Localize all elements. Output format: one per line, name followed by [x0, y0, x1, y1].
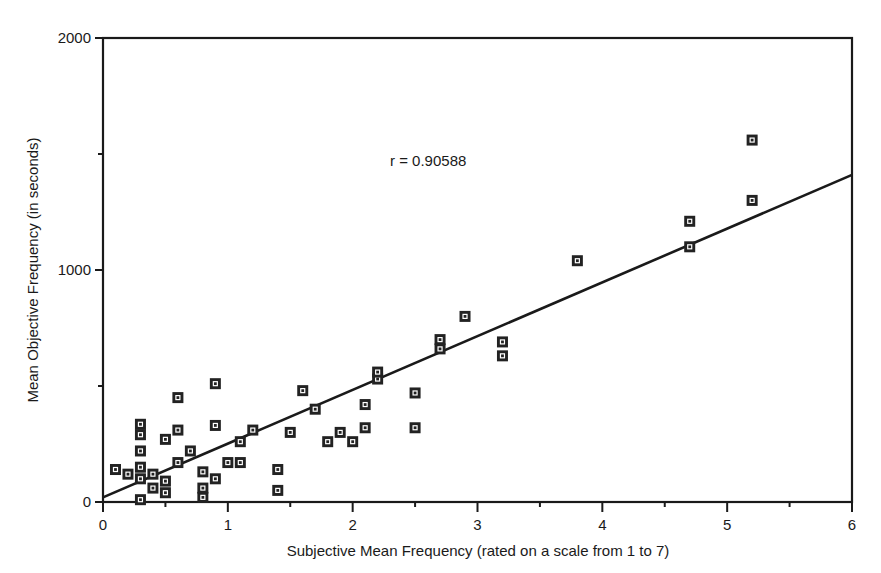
y-tick-label: 1000 — [58, 261, 91, 278]
y-axis: 010002000 — [58, 29, 103, 510]
y-tick-label: 2000 — [58, 29, 91, 46]
data-point — [197, 466, 208, 477]
x-tick-label: 0 — [99, 516, 107, 533]
data-point — [210, 473, 221, 484]
x-tick-label: 1 — [224, 516, 232, 533]
data-point — [497, 350, 508, 361]
data-point — [410, 422, 421, 433]
regression-line — [103, 175, 852, 497]
data-point — [235, 457, 246, 468]
data-point — [147, 483, 158, 494]
scatter-chart: 010002000 0123456 r = 0.90588 Subjective… — [0, 0, 881, 573]
data-point — [747, 135, 758, 146]
data-point — [322, 436, 333, 447]
data-point — [110, 464, 121, 475]
x-axis-title: Subjective Mean Frequency (rated on a sc… — [287, 542, 670, 559]
data-points — [110, 135, 758, 506]
data-point — [360, 422, 371, 433]
y-axis-title: Mean Objective Frequency (in seconds) — [24, 137, 41, 402]
data-point — [372, 367, 383, 378]
data-point — [684, 216, 695, 227]
y-tick-label: 0 — [83, 493, 91, 510]
data-point — [135, 429, 146, 440]
data-point — [235, 436, 246, 447]
data-point — [122, 469, 133, 480]
data-point — [360, 399, 371, 410]
data-point — [297, 385, 308, 396]
data-point — [160, 487, 171, 498]
data-point — [272, 464, 283, 475]
data-point — [210, 420, 221, 431]
data-point — [210, 378, 221, 389]
data-point — [197, 483, 208, 494]
data-point — [135, 473, 146, 484]
plot-frame — [103, 38, 852, 502]
data-point — [410, 387, 421, 398]
data-point — [135, 462, 146, 473]
data-point — [160, 434, 171, 445]
data-point — [435, 334, 446, 345]
data-point — [247, 425, 258, 436]
data-point — [222, 457, 233, 468]
data-point — [135, 494, 146, 505]
data-point — [460, 311, 471, 322]
data-point — [147, 469, 158, 480]
data-point — [572, 255, 583, 266]
data-point — [347, 436, 358, 447]
data-point — [172, 425, 183, 436]
data-point — [285, 427, 296, 438]
data-point — [172, 457, 183, 468]
data-point — [185, 445, 196, 456]
x-tick-label: 2 — [348, 516, 356, 533]
x-axis: 0123456 — [99, 502, 856, 533]
data-point — [684, 241, 695, 252]
x-tick-label: 5 — [723, 516, 731, 533]
x-tick-label: 4 — [598, 516, 606, 533]
correlation-annotation: r = 0.90588 — [390, 152, 466, 169]
data-point — [172, 392, 183, 403]
data-point — [135, 419, 146, 430]
data-point — [272, 485, 283, 496]
data-point — [497, 336, 508, 347]
x-tick-label: 3 — [473, 516, 481, 533]
data-point — [747, 195, 758, 206]
data-point — [160, 476, 171, 487]
data-point — [310, 404, 321, 415]
x-tick-label: 6 — [848, 516, 856, 533]
data-point — [335, 427, 346, 438]
data-point — [135, 445, 146, 456]
